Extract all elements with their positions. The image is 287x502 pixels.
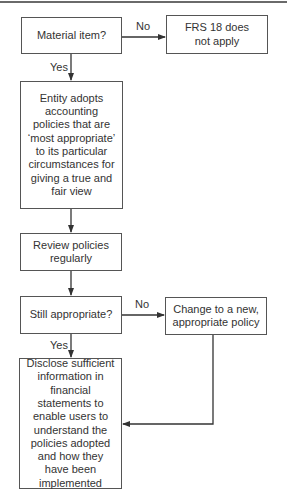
change-policy-box: Change to a new, appropriate policy (165, 297, 267, 335)
edge-label-no-2: No (135, 298, 149, 310)
frs18-text: FRS 18 does not apply (179, 21, 255, 48)
review-policies-box: Review policies regularly (20, 233, 122, 271)
still-appropriate-text: Still appropriate? (30, 308, 113, 321)
entity-adopts-box: Entity adopts accounting policies that a… (20, 81, 123, 209)
material-item-decision: Material item? (21, 17, 122, 54)
edge-label-yes-2: Yes (50, 339, 68, 351)
edge-label-no-1: No (136, 20, 150, 32)
entity-adopts-text: Entity adopts accounting policies that a… (26, 92, 117, 198)
disclose-information-text: Disclose sufficient information in finan… (26, 357, 115, 490)
disclose-information-box: Disclose sufficient information in finan… (19, 358, 122, 489)
still-appropriate-decision: Still appropriate? (20, 296, 122, 334)
edge-label-yes-1: Yes (50, 61, 68, 73)
material-item-text: Material item? (37, 29, 106, 42)
review-policies-text: Review policies regularly (33, 239, 109, 266)
frs18-not-apply-box: FRS 18 does not apply (166, 15, 268, 54)
change-policy-text: Change to a new, appropriate policy (169, 303, 263, 330)
